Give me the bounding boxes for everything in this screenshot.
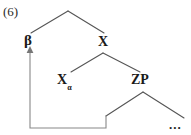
- branch-zp-to-left-daughter: [106, 92, 143, 116]
- tree-node-x-alpha: Xα: [57, 73, 72, 90]
- example-number: (6): [3, 5, 18, 18]
- tree-lines-layer: [0, 0, 191, 135]
- branch-root-to-beta: [31, 11, 68, 33]
- branch-x-to-xalpha: [71, 53, 103, 72]
- branch-zp-to-ellipsis: [143, 92, 184, 118]
- branch-root-to-x: [68, 11, 104, 33]
- branch-x-to-zp: [103, 53, 140, 72]
- syntax-tree-figure: (6) β X Xα ZP ...: [0, 0, 191, 135]
- tree-node-x-alpha-base: X: [57, 72, 67, 87]
- tree-node-x-alpha-subscript: α: [67, 83, 71, 92]
- tree-node-zp: ZP: [131, 73, 149, 87]
- tree-node-x: X: [98, 35, 108, 49]
- tree-node-ellipsis: ...: [169, 118, 182, 131]
- tree-node-beta: β: [24, 33, 32, 48]
